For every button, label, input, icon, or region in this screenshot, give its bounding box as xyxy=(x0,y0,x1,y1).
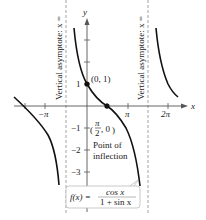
point-0-1 xyxy=(84,81,89,86)
svg-text:2: 2 xyxy=(95,128,100,138)
function-lhs: f(x) = xyxy=(70,192,91,202)
point-inflection xyxy=(104,103,109,108)
inflection-label-line1: Point of xyxy=(93,140,122,150)
y-axis-label: y xyxy=(82,7,87,17)
x-axis-label: x xyxy=(190,101,195,111)
asymptote-right-label: Vertical asymptote: x = xyxy=(136,16,146,100)
function-numerator: cos x xyxy=(106,187,124,197)
curve-branch-left xyxy=(14,97,59,185)
asymptote-left-label: Vertical asymptote: x = xyxy=(54,16,64,100)
tick-neg-pi: −π xyxy=(38,109,49,119)
svg-text:, 0: , 0 xyxy=(101,124,111,134)
tick-y1: 1 xyxy=(76,79,81,89)
y-axis-arrow-icon xyxy=(85,18,90,25)
svg-text:(: ( xyxy=(90,125,93,135)
tick-y-neg2: −2 xyxy=(71,145,81,155)
svg-text:): ) xyxy=(112,125,115,135)
x-axis-arrow-icon xyxy=(181,104,188,109)
label-point-0-1: (0, 1) xyxy=(91,74,111,84)
function-denominator: 1 + sin x xyxy=(100,197,132,207)
callout-pointer xyxy=(130,180,138,186)
tick-pi: π xyxy=(125,109,130,119)
tick-y-neg1: −1 xyxy=(71,123,81,133)
tick-2pi: 2π xyxy=(161,109,171,119)
label-point-inflection: ( π 2 , 0 ) xyxy=(90,118,115,138)
curve-branch-right xyxy=(156,28,178,97)
svg-text:π: π xyxy=(95,118,100,128)
function-graph: Vertical asymptote: x = Vertical asympto… xyxy=(0,0,206,220)
inflection-label-line2: inflection xyxy=(93,151,128,161)
tick-y-neg3: −3 xyxy=(71,167,81,177)
